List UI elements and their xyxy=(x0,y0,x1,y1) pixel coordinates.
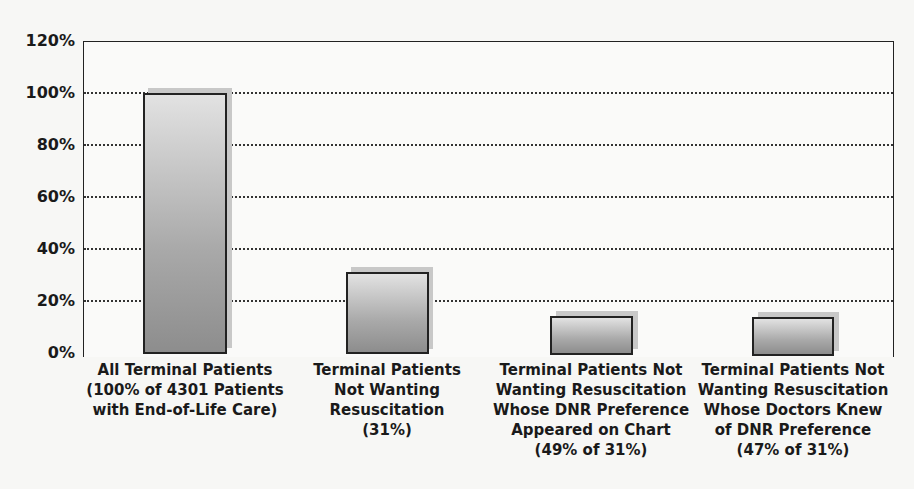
bar-dnr-on-chart xyxy=(550,316,633,355)
label-line: (100% of 4301 Patients xyxy=(70,380,300,400)
bar-not-wanting-resuscitation xyxy=(346,272,429,354)
y-tick-40: 40% xyxy=(37,241,75,257)
label-line: Terminal Patients xyxy=(302,360,472,380)
bar-all-terminal-patients xyxy=(143,93,227,354)
category-label-2: Terminal Patients Not Wanting Resuscitat… xyxy=(302,360,472,440)
label-line: Not Wanting xyxy=(302,380,472,400)
category-label-1: All Terminal Patients (100% of 4301 Pati… xyxy=(70,360,300,420)
y-tick-20: 20% xyxy=(37,293,75,309)
label-line: Terminal Patients Not xyxy=(693,360,893,380)
label-line: (47% of 31%) xyxy=(693,440,893,460)
label-line: Resuscitation xyxy=(302,400,472,420)
label-line: (49% of 31%) xyxy=(491,440,691,460)
label-line: Wanting Resuscitation xyxy=(693,380,893,400)
y-tick-120: 120% xyxy=(26,33,75,49)
y-tick-0: 0% xyxy=(48,345,75,361)
category-label-4: Terminal Patients Not Wanting Resuscitat… xyxy=(693,360,893,460)
label-line: (31%) xyxy=(302,420,472,440)
category-label-3: Terminal Patients Not Wanting Resuscitat… xyxy=(491,360,691,460)
y-tick-80: 80% xyxy=(37,137,75,153)
label-line: Wanting Resuscitation xyxy=(491,380,691,400)
label-line: Whose DNR Preference xyxy=(491,400,691,420)
label-line: Appeared on Chart xyxy=(491,420,691,440)
label-line: Whose Doctors Knew xyxy=(693,400,893,420)
label-line: Terminal Patients Not xyxy=(491,360,691,380)
label-line: with End-of-Life Care) xyxy=(70,400,300,420)
label-line: of DNR Preference xyxy=(693,420,893,440)
label-line: All Terminal Patients xyxy=(70,360,300,380)
y-tick-60: 60% xyxy=(37,189,75,205)
bar-doctors-knew-dnr xyxy=(752,317,834,356)
y-tick-100: 100% xyxy=(26,85,75,101)
